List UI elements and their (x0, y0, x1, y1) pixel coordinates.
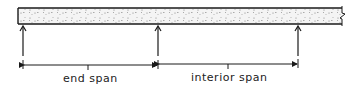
support-arrows (20, 26, 301, 56)
slab (18, 6, 345, 26)
slab-diagram (0, 0, 357, 94)
support-arrow-3 (295, 26, 301, 56)
support-arrow-1 (20, 26, 26, 56)
support-arrow-2 (155, 26, 161, 56)
interior-span-label: interior span (191, 71, 267, 84)
dimension-lines (23, 59, 298, 70)
end-span-label: end span (63, 72, 118, 85)
